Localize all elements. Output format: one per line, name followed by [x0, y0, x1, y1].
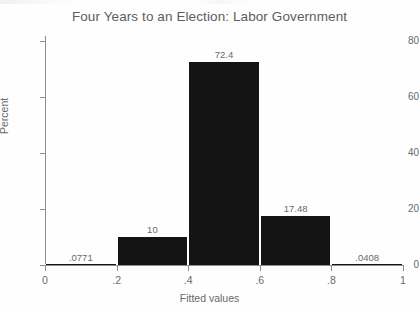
chart-title: Four Years to an Election: Labor Governm… [0, 9, 419, 24]
x-tick-mark [403, 265, 404, 271]
x-tick-mark [117, 265, 118, 271]
bar-value-label: 17.48 [284, 203, 308, 214]
bar [331, 264, 403, 265]
x-tick-label: .4 [184, 274, 193, 286]
bar-value-label: 72.4 [215, 49, 234, 60]
y-axis-title: Percent [0, 98, 10, 134]
x-tick-label: .6 [255, 274, 264, 286]
x-tick-mark [260, 265, 261, 271]
bar-value-label: .0408 [355, 252, 379, 263]
bar [260, 216, 332, 265]
histogram-chart: Four Years to an Election: Labor Governm… [0, 0, 419, 312]
x-axis-title: Fitted values [0, 292, 419, 304]
bar [45, 264, 117, 265]
x-tick-label: 1 [400, 274, 406, 286]
x-axis-line [45, 265, 403, 266]
bar-value-label: .0771 [69, 252, 93, 263]
x-tick-label: 0 [42, 274, 48, 286]
x-tick-mark [188, 265, 189, 271]
x-tick-mark [331, 265, 332, 271]
x-tick-label: .2 [112, 274, 121, 286]
bar-value-label: 10 [147, 224, 158, 235]
x-tick-label: .8 [327, 274, 336, 286]
x-tick-mark [45, 265, 46, 271]
bar [188, 62, 260, 265]
scan-artifact [0, 0, 419, 4]
bar [117, 237, 189, 265]
plot-area [45, 34, 403, 265]
